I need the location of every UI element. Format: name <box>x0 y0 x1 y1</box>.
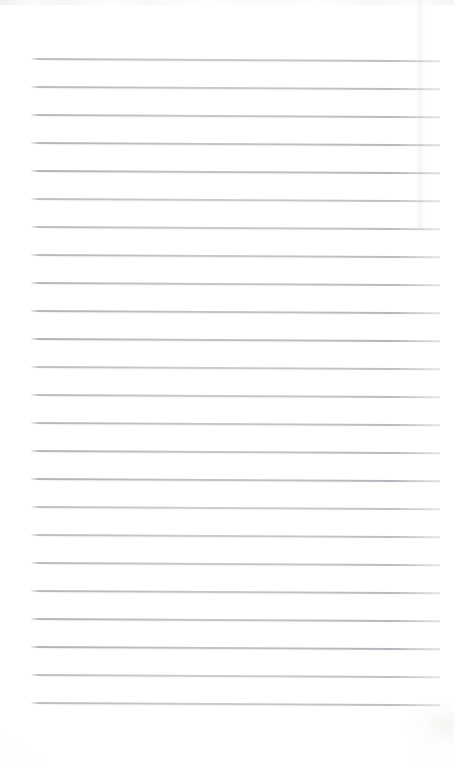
scanned-page <box>0 0 454 764</box>
rule-line <box>31 282 440 286</box>
rule-line <box>31 142 440 146</box>
rule-line <box>31 506 440 510</box>
rule-line <box>31 422 440 426</box>
rule-line <box>31 114 440 118</box>
rule-line <box>31 618 440 622</box>
rule-line <box>31 170 440 174</box>
rule-line <box>31 702 440 706</box>
rule-line <box>31 646 440 650</box>
rule-line <box>31 366 440 370</box>
rule-line-group <box>0 0 454 764</box>
rule-line <box>31 590 440 594</box>
rule-line <box>31 674 440 678</box>
rule-line <box>31 226 440 230</box>
rule-line <box>31 478 440 482</box>
rule-line <box>31 338 440 342</box>
rule-line <box>31 86 440 90</box>
rule-line <box>31 562 440 566</box>
rule-line <box>31 450 440 454</box>
rule-line <box>31 198 440 202</box>
rule-line <box>31 394 440 398</box>
rule-line <box>31 534 440 538</box>
rule-line <box>31 58 440 62</box>
rule-line <box>31 310 440 314</box>
rule-line <box>31 254 440 258</box>
